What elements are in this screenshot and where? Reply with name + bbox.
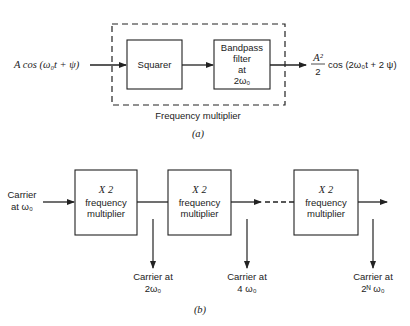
output-signal-label: cos (2ω₀t + 2 ψ): [328, 59, 397, 70]
tap-2w0-line1: Carrier at: [133, 271, 173, 282]
frequency-multiplier-diagram: A cos (ω₀t + ψ) Squarer Bandpass filter …: [0, 0, 410, 326]
output-numerator: A²: [312, 52, 323, 63]
block-1-x2: X 2: [98, 184, 114, 195]
block-n-line3: multiplier: [307, 208, 345, 219]
squarer-label: Squarer: [138, 59, 172, 70]
filter-label-line2: filter: [233, 53, 251, 64]
block-1-line2: frequency: [85, 197, 127, 208]
caption-a: (a): [192, 128, 205, 140]
block-2-x2: X 2: [191, 184, 207, 195]
block-n-line2: frequency: [305, 197, 347, 208]
figure-b: Carrier at ω₀ X 2 frequency multiplier X…: [7, 170, 393, 316]
tap-2w0-line2: 2ω₀: [145, 283, 162, 294]
block-2-line2: frequency: [179, 197, 221, 208]
filter-label-line3: at: [238, 64, 246, 75]
figure-a: A cos (ω₀t + ψ) Squarer Bandpass filter …: [13, 24, 397, 140]
tap-4w0-line2: 4 ω₀: [237, 283, 256, 294]
block-2-line3: multiplier: [180, 208, 218, 219]
block-n-x2: X 2: [318, 184, 334, 195]
tap-2nw0-line1: Carrier at: [353, 271, 393, 282]
frequency-multiplier-label: Frequency multiplier: [155, 110, 241, 121]
block-1-line3: multiplier: [87, 208, 125, 219]
tap-4w0-line1: Carrier at: [227, 271, 267, 282]
carrier-input-label-line1: Carrier: [7, 189, 36, 200]
filter-label-line4: 2ω₀: [234, 75, 251, 86]
input-signal-label: A cos (ω₀t + ψ): [13, 59, 80, 71]
tap-2nw0-line2: 2ᴺ ω₀: [361, 283, 384, 294]
carrier-input-label-line2: at ω₀: [11, 201, 33, 212]
output-denominator: 2: [315, 66, 320, 77]
filter-label-line1: Bandpass: [221, 42, 264, 53]
caption-b: (b): [194, 304, 207, 316]
